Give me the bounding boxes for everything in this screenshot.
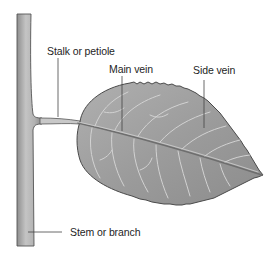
label-petiole: Stalk or petiole [47, 45, 115, 57]
label-side-vein: Side vein [193, 64, 235, 76]
leaf-diagram [0, 0, 276, 257]
petiole [40, 118, 80, 124]
stem [17, 14, 42, 246]
label-stem: Stem or branch [70, 226, 140, 238]
leaf-blade [77, 82, 263, 205]
label-main-vein: Main vein [109, 63, 153, 75]
